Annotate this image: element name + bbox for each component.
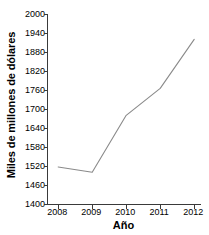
x-axis-tick-label: 2010: [115, 208, 135, 217]
y-axis-tick-label: 1820: [18, 67, 45, 76]
y-axis-tick-mark: [44, 52, 48, 53]
plot-area: [47, 14, 201, 205]
y-axis-tick-label: 1880: [18, 48, 45, 57]
x-axis-tick-label: 2011: [150, 208, 169, 217]
y-axis-tick-mark: [44, 90, 48, 91]
data-line-svg: [48, 14, 201, 204]
y-axis-tick-label: 1520: [18, 162, 45, 171]
data-line-series-1: [58, 39, 194, 172]
y-axis-tick-mark: [44, 109, 48, 110]
y-axis-tick-labels: 1400146015201580164017001760182018801940…: [18, 0, 45, 235]
y-axis-tick-mark: [44, 71, 48, 72]
y-axis-tick-mark: [44, 204, 48, 205]
y-axis-tick-label: 1940: [18, 29, 45, 38]
y-axis-tick-label: 1640: [18, 124, 45, 133]
y-axis-tick-label: 1400: [18, 200, 45, 209]
y-axis-tick-mark: [44, 166, 48, 167]
y-axis-tick-label: 1580: [18, 143, 45, 152]
x-axis-tick-label: 2009: [81, 208, 101, 217]
chart-figure: Miles de millones de dólares 14001460152…: [0, 0, 209, 235]
x-axis-tick-label: 2008: [47, 208, 67, 217]
x-axis-title: Año: [47, 220, 200, 231]
y-axis-tick-label: 1460: [18, 181, 45, 190]
y-axis-tick-mark: [44, 14, 48, 15]
y-axis-title-text: Miles de millones de dólares: [5, 32, 17, 178]
y-axis-tick-mark: [44, 147, 48, 148]
y-axis-tick-mark: [44, 185, 48, 186]
y-axis-tick-mark: [44, 128, 48, 129]
y-axis-tick-label: 1760: [18, 86, 45, 95]
y-axis-tick-mark: [44, 33, 48, 34]
x-axis-tick-label: 2012: [183, 208, 203, 217]
y-axis-tick-label: 1700: [18, 105, 45, 114]
y-axis-tick-label: 2000: [18, 10, 45, 19]
